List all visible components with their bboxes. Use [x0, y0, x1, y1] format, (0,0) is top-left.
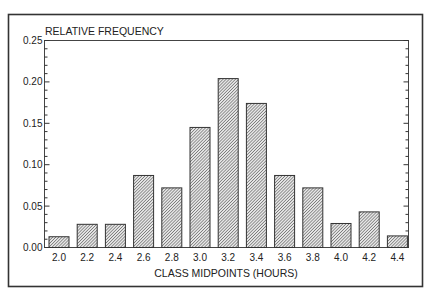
x-axis-ticks: 2.02.22.42.62.83.03.23.43.63.84.04.24.4	[52, 252, 405, 263]
y-axis-label: RELATIVE FREQUENCY	[45, 25, 164, 37]
bar-4-2	[359, 212, 379, 248]
x-tick-label: 2.4	[108, 252, 122, 263]
x-tick-label: 3.6	[278, 252, 292, 263]
y-tick-label: 0.25	[23, 35, 43, 46]
x-axis-label: CLASS MIDPOINTS (HOURS)	[154, 267, 298, 279]
bar-2-6	[134, 175, 154, 247]
bar-4-0	[331, 223, 351, 247]
y-tick-label: 0.00	[23, 242, 43, 253]
y-tick-label: 0.10	[23, 159, 43, 170]
x-tick-label: 2.6	[137, 252, 151, 263]
x-tick-label: 4.4	[390, 252, 404, 263]
x-tick-label: 3.8	[306, 252, 320, 263]
y-axis-ticks: 0.000.050.100.150.200.25	[23, 35, 408, 253]
x-tick-label: 4.2	[362, 252, 376, 263]
x-tick-label: 4.0	[334, 252, 348, 263]
x-tick-label: 3.0	[193, 252, 207, 263]
x-tick-label: 2.0	[52, 252, 66, 263]
bar-3-2	[218, 79, 238, 248]
y-tick-label: 0.20	[23, 76, 43, 87]
x-tick-label: 2.8	[165, 252, 179, 263]
y-tick-label: 0.15	[23, 118, 43, 129]
x-tick-label: 3.2	[221, 252, 235, 263]
bar-2-2	[77, 224, 97, 247]
y-tick-label: 0.05	[23, 201, 43, 212]
bar-4-4	[387, 236, 407, 248]
bar-2-4	[105, 224, 125, 247]
bar-2-0	[49, 237, 69, 248]
bars-group	[49, 79, 407, 248]
x-tick-label: 2.2	[80, 252, 94, 263]
bar-3-4	[246, 103, 266, 247]
bar-3-0	[190, 127, 210, 247]
bar-3-8	[303, 188, 323, 248]
histogram-chart: RELATIVE FREQUENCY CLASS MIDPOINTS (HOUR…	[0, 0, 430, 298]
bar-3-6	[275, 175, 295, 247]
x-tick-label: 3.4	[249, 252, 263, 263]
bar-2-8	[162, 188, 182, 248]
